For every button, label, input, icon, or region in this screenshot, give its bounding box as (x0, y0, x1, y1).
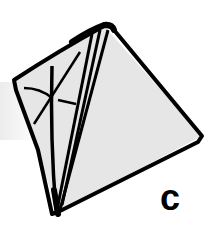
bottom-apex (54, 190, 58, 214)
pyramid-figure (0, 0, 223, 226)
diagram-canvas: c (0, 0, 223, 226)
step-label: c (160, 180, 180, 216)
